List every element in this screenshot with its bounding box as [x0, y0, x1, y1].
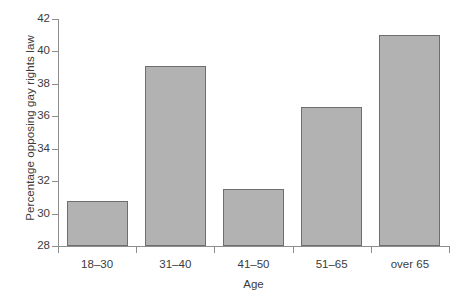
y-axis-tick-label: 40: [20, 45, 50, 57]
bar: [379, 35, 440, 246]
bar: [223, 189, 284, 246]
y-axis-tick-label: 30: [20, 208, 50, 220]
x-axis-tick: [136, 246, 137, 253]
y-axis-tick: [52, 84, 59, 85]
y-axis-tick-label: 28: [20, 240, 50, 252]
bar-chart-figure: Percentage opposing gay rights law 28303…: [0, 0, 467, 306]
y-axis-tick: [52, 214, 59, 215]
bar: [145, 66, 206, 246]
y-axis-tick: [52, 181, 59, 182]
x-axis-tick-label: 51–65: [287, 258, 377, 270]
y-axis-tick: [52, 19, 59, 20]
x-axis-tick: [58, 246, 59, 253]
x-axis-tick-label: 31–40: [130, 258, 220, 270]
y-axis-tick: [52, 116, 59, 117]
x-axis-tick: [371, 246, 372, 253]
y-axis-tick-label: 36: [20, 110, 50, 122]
y-axis-tick: [52, 149, 59, 150]
y-axis-tick: [52, 51, 59, 52]
x-axis-line: [58, 246, 449, 247]
y-axis-tick-label: 34: [20, 143, 50, 155]
y-axis-tick-label: 38: [20, 78, 50, 90]
x-axis-tick: [214, 246, 215, 253]
x-axis-tick-label: 18–30: [52, 258, 142, 270]
x-axis-tick-label: 41–50: [209, 258, 299, 270]
bar: [67, 201, 128, 246]
y-axis-tick-label: 42: [20, 13, 50, 25]
x-axis-tick: [293, 246, 294, 253]
y-axis-tick-label: 32: [20, 175, 50, 187]
x-axis-tick-label: over 65: [365, 258, 455, 270]
x-axis-title: Age: [58, 278, 449, 290]
x-axis-tick: [449, 246, 450, 253]
cropped-caption: [3, 301, 193, 306]
bar: [301, 107, 362, 246]
